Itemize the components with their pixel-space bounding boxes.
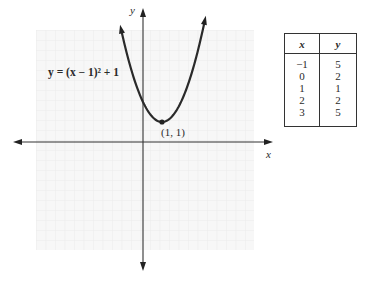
table-cell: 2 [320, 94, 356, 106]
table-cell: 1 [320, 82, 356, 94]
table-header: x y [285, 34, 356, 54]
table-cell: −1 [285, 58, 319, 70]
table-cell: 5 [320, 58, 356, 70]
y-axis-up-arrow-icon [140, 8, 146, 17]
curve-right-arrow-icon [201, 16, 207, 25]
x-column: −1 0 1 2 3 [285, 54, 320, 126]
x-axis-left-arrow-icon [13, 139, 22, 145]
x-axis-label: x [266, 148, 271, 160]
table-cell: 2 [320, 70, 356, 82]
y-axis-label: y [130, 4, 135, 16]
table-cell: 1 [285, 82, 319, 94]
table-cell: 0 [285, 70, 319, 82]
values-table: x y −1 0 1 2 3 5 2 1 2 5 [284, 33, 357, 127]
grid [36, 30, 254, 250]
vertex-label: (1, 1) [161, 126, 185, 138]
y-column: 5 2 1 2 5 [320, 54, 356, 126]
equation-label: y = (x − 1)² + 1 [48, 66, 119, 78]
table-cell: 3 [285, 106, 319, 118]
y-axis-down-arrow-icon [140, 262, 146, 271]
table-body: −1 0 1 2 3 5 2 1 2 5 [285, 54, 356, 126]
curve-left-arrow-icon [119, 25, 125, 34]
header-y: y [320, 34, 356, 53]
x-axis-right-arrow-icon [264, 139, 273, 145]
header-x: x [285, 34, 320, 53]
vertex-point [159, 119, 164, 124]
table-cell: 5 [320, 106, 356, 118]
table-cell: 2 [285, 94, 319, 106]
